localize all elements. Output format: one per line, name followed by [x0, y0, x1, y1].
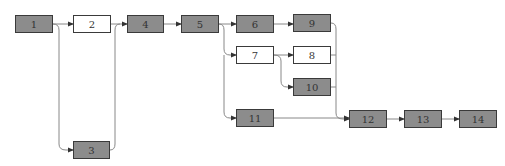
node-label: 7 — [252, 50, 258, 61]
node-5: 5 — [181, 15, 219, 33]
edge-3-4 — [110, 24, 120, 150]
node-2: 2 — [73, 15, 111, 33]
node-label: 12 — [362, 114, 375, 125]
node-10: 10 — [293, 78, 331, 96]
network-diagram: 1 2 3 4 5 6 7 8 9 10 11 12 13 14 — [0, 0, 505, 166]
node-3: 3 — [73, 141, 110, 159]
node-14: 14 — [459, 110, 497, 128]
node-label: 14 — [472, 114, 485, 125]
node-13: 13 — [404, 110, 442, 128]
node-label: 10 — [306, 82, 319, 93]
node-label: 5 — [197, 19, 203, 30]
node-11: 11 — [236, 109, 274, 127]
node-label: 9 — [309, 18, 315, 29]
node-label: 8 — [309, 50, 315, 61]
node-label: 4 — [142, 19, 148, 30]
node-label: 6 — [252, 19, 258, 30]
edge-1-3 — [53, 24, 73, 150]
node-label: 1 — [31, 19, 37, 30]
edge-9-12 — [331, 23, 349, 119]
node-4: 4 — [127, 15, 164, 33]
node-8: 8 — [293, 46, 331, 64]
edge-7-10 — [274, 55, 293, 87]
node-label: 11 — [249, 113, 262, 124]
node-label: 13 — [417, 114, 430, 125]
edge-5-11 — [224, 55, 236, 118]
node-7: 7 — [236, 46, 274, 64]
node-1: 1 — [15, 15, 53, 33]
edge-5-7 — [219, 24, 236, 55]
node-label: 2 — [89, 19, 95, 30]
node-6: 6 — [236, 15, 274, 33]
node-label: 3 — [88, 145, 94, 156]
node-12: 12 — [349, 110, 387, 128]
node-9: 9 — [293, 14, 331, 32]
